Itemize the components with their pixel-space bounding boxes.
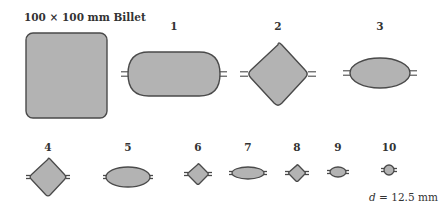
billet-shape: [26, 33, 107, 118]
roll-gap-marker: [240, 72, 248, 76]
pass-9-shape: [330, 167, 346, 177]
pass-5-shape: [106, 167, 150, 187]
pass-2-shape: [249, 43, 307, 105]
pass-10-shape: [384, 165, 394, 175]
pass-7-shape: [232, 167, 264, 179]
roll-pass-diagram: [0, 0, 443, 214]
roll-gap-marker: [66, 176, 70, 179]
pass-1-shape: [128, 52, 220, 96]
pass-3-shape: [350, 58, 410, 88]
pass-6-shape: [188, 164, 209, 185]
pass-4-shape: [30, 158, 66, 196]
roll-gap-marker: [26, 176, 30, 179]
roll-gap-marker: [308, 72, 316, 76]
pass-8-shape: [289, 165, 306, 182]
